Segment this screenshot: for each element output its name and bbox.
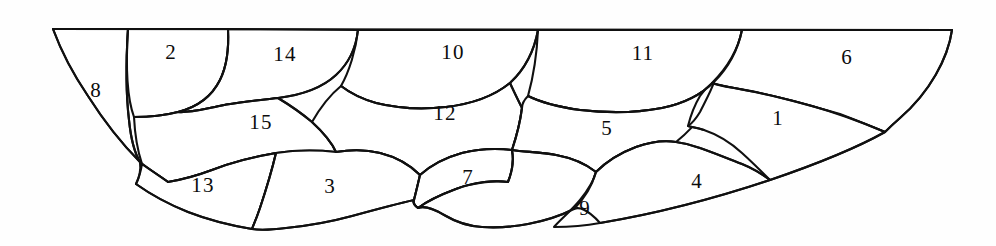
region-label-11: 11 xyxy=(632,43,655,64)
region-label-5: 5 xyxy=(601,118,613,139)
region-label-9: 9 xyxy=(579,198,591,219)
region-label-3: 3 xyxy=(324,176,336,197)
region-label-6: 6 xyxy=(841,47,853,68)
region-label-14: 14 xyxy=(273,44,296,65)
region-diagram-svg xyxy=(0,0,996,246)
top-border xyxy=(53,29,952,30)
region-label-8: 8 xyxy=(90,80,102,101)
region-label-1: 1 xyxy=(772,108,784,129)
region-label-12: 12 xyxy=(433,103,456,124)
region-label-7: 7 xyxy=(462,167,474,188)
region-label-4: 4 xyxy=(691,171,703,192)
region-label-15: 15 xyxy=(249,112,272,133)
region-label-10: 10 xyxy=(441,42,464,63)
region-label-2: 2 xyxy=(165,42,177,63)
figure-root: 821410116151251133794 xyxy=(0,0,996,246)
region-label-13: 13 xyxy=(191,175,214,196)
